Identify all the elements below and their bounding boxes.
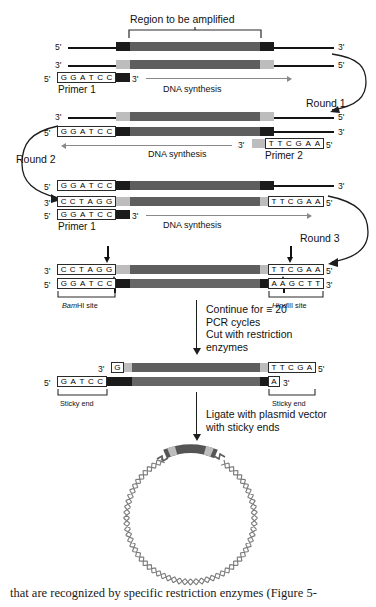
base-t: T [89,210,94,219]
base-a: A [80,181,86,190]
p5-top-bamhi-block [124,363,132,372]
p4-top-hindiii-block [260,265,268,274]
p2-synthesis-arrow [62,145,232,146]
p3-a-5prime: 5' [44,182,50,192]
p2-a-right-line [274,117,334,119]
p3-c-tail-block [116,210,130,219]
base-c: C [288,197,294,206]
base-g: G [106,265,112,274]
base-t: T [272,363,277,372]
p2-a-hindiii-block [260,112,274,121]
base-t: T [79,377,84,386]
p2-b-right-line [274,131,334,133]
base-t: T [277,139,282,148]
base-c: C [106,127,112,136]
p1-top-3prime: 3' [338,42,344,52]
base-a: A [307,363,313,372]
sticky-end-right-bracket [268,389,317,398]
base-c: C [97,210,103,219]
base-a: A [71,377,77,386]
base-c: C [106,181,112,190]
p3-b-3prime: 3' [44,198,50,208]
ligate-step-arrow [196,392,197,435]
p4-bot-bamhi-block [116,279,130,288]
base-a: A [272,279,278,288]
pcr-cloning-figure: Region to be amplified 5' 3' 3' 5' 5' GG… [0,0,376,607]
p5-bot-a-sequence: A [268,376,280,387]
p3-a-insert-block [130,181,260,190]
bamhi-site-label: BamHI site [62,301,98,311]
bamhi-rest: HI site [77,301,98,310]
base-g: G [96,197,102,206]
base-t: T [89,73,94,82]
base-t: T [280,363,285,372]
p3-b-bamhi-block [116,197,130,206]
base-g: G [106,197,112,206]
figure-caption: that are recognized by specific restrict… [10,586,317,601]
p5-top-3prime: 3' [98,364,104,374]
p2-b-insert-block [130,127,260,136]
p5-top-insert-block [132,363,260,372]
bamhi-cut-arrow-top [107,246,109,258]
base-g: G [296,139,302,148]
p5-bot-hindiii-block [260,377,268,386]
base-g: G [61,181,67,190]
base-g: G [297,265,303,274]
p3-c-5prime: 5' [44,211,50,221]
p5-top-hindiii-block [260,363,268,372]
base-g: G [289,279,295,288]
base-c: C [88,377,94,386]
base-a: A [87,197,93,206]
hindiii-cut-arrow-top [290,246,292,258]
base-t: T [79,197,84,206]
bamhi-italic: Bam [62,301,77,310]
base-c: C [106,73,112,82]
base-g: G [297,197,303,206]
hindiii-site-bracket [268,291,325,300]
base-g: G [61,279,67,288]
p4-bot-5prime: 5' [44,280,50,290]
p1-primer1-label: Primer 1 [58,85,96,95]
p3-c-primer1-sequence: GGATCC [57,209,116,220]
base-c: C [97,73,103,82]
p4-bot-ggatcc-sequence: GGATCC [57,278,116,289]
bamhi-site-bracket [57,291,117,300]
base-c: C [288,363,294,372]
base-t: T [79,265,84,274]
p5-top-5prime: 5' [318,364,324,374]
round3-label: Round 3 [300,233,340,243]
p1-synthesis-label: DNA synthesis [163,84,222,94]
base-c: C [61,197,67,206]
p1-bot-hindiii-block [260,60,274,69]
base-g: G [61,73,67,82]
p1-top-insert-block [130,42,260,51]
base-t: T [280,197,285,206]
base-c: C [97,127,103,136]
base-a: A [271,377,277,386]
base-t: T [280,265,285,274]
base-g: G [70,210,76,219]
sticky-end-left-label: Sticky end [60,399,94,409]
base-g: G [114,363,120,372]
p1-primer1-5prime: 5' [44,74,50,84]
base-a: A [80,210,86,219]
p1-bot-right-line [274,65,334,67]
p4-top-5prime: 5' [326,266,332,276]
p4-bot-insert-block [130,279,260,288]
base-c: C [97,181,103,190]
base-a: A [280,279,286,288]
p3-a-right-line [274,185,334,187]
base-a: A [87,265,93,274]
p2-a-insert-block [130,112,260,121]
ligate-step-text: Ligate with plasmid vector with sticky e… [206,408,327,433]
base-c: C [70,197,76,206]
base-t: T [272,265,277,274]
figure-title: Region to be amplified [130,14,234,24]
p3-b-sequence: CCTAGG [57,196,116,207]
p3-a-hindiii-block [260,181,274,190]
round3-arrow [326,194,376,266]
p5-bot-bamhi-block [107,377,132,386]
base-a: A [306,265,312,274]
p1-bot-insert-block [130,60,260,69]
base-c: C [288,265,294,274]
